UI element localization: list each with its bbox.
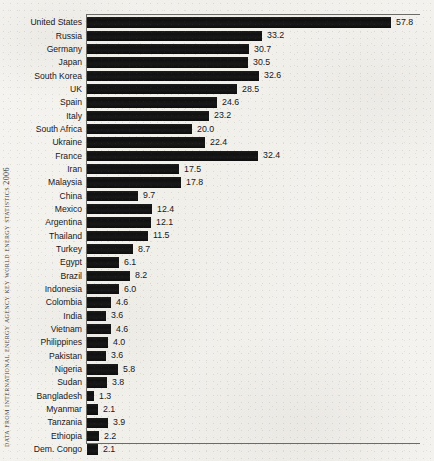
bar-and-value: 1.3 [87,391,111,401]
bar-row: South Korea32.6 [0,69,434,82]
category-label: Colombia [0,298,82,307]
bar [87,337,108,347]
value-label: 22.4 [210,138,227,147]
value-label: 11.5 [153,231,169,240]
bar-and-value: 32.6 [87,71,281,81]
bar [87,311,106,321]
value-label: 9.7 [143,191,155,200]
bar-row: Turkey8.7 [0,243,434,256]
bar-and-value: 2.1 [87,404,115,414]
bar-row: Pakistan3.6 [0,350,434,363]
category-label: India [0,312,82,321]
category-label: Brazil [0,272,82,281]
category-label: South Korea [0,72,82,81]
bar [87,351,106,361]
chart-page: Data from International Energy Agency Ke… [0,0,434,461]
bar [87,324,111,334]
category-label: Dem. Congo [0,445,82,454]
bar [87,164,179,174]
category-label: Tanzania [0,418,82,427]
category-label: South Africa [0,125,82,134]
bar [87,44,249,54]
value-label: 6.1 [124,258,136,267]
category-label: Ethiopia [0,432,82,441]
bar-row: United States57.8 [0,16,434,29]
value-label: 8.7 [138,245,150,254]
category-label: Italy [0,112,82,121]
bar [87,97,217,107]
category-label: Ukraine [0,138,82,147]
bar [87,151,258,161]
bar-and-value: 32.4 [87,151,280,161]
bar-row: Myanmar2.1 [0,403,434,416]
category-label: Myanmar [0,405,82,414]
bar-and-value: 30.7 [87,44,271,54]
bar-and-value: 6.1 [87,257,136,267]
value-label: 3.6 [111,351,123,360]
bar-and-value: 8.7 [87,244,150,254]
value-label: 30.7 [254,45,271,54]
category-label: Turkey [0,245,82,254]
bar [87,204,152,214]
bar-row: Nigeria5.8 [0,363,434,376]
bar [87,71,259,81]
bar [87,271,130,281]
bar-and-value: 57.8 [87,17,413,27]
value-label: 12.4 [157,205,174,214]
value-label: 20.0 [197,125,214,134]
bar [87,137,205,147]
bar-row: Malaysia17.8 [0,176,434,189]
category-label: Argentina [0,218,82,227]
bar-row: Russia33.2 [0,29,434,42]
bar-and-value: 30.5 [87,57,270,67]
bar-row: Spain24.6 [0,96,434,109]
category-label: Mexico [0,205,82,214]
category-label: United States [0,18,82,27]
bar [87,57,248,67]
bar [87,391,94,401]
value-label: 3.6 [111,311,123,320]
bar [87,244,133,254]
bar-and-value: 28.5 [87,84,259,94]
bar-and-value: 11.5 [87,231,169,241]
category-label: Spain [0,98,82,107]
value-label: 12.1 [156,218,173,227]
bar [87,231,148,241]
value-label: 30.5 [253,58,270,67]
category-label: Sudan [0,378,82,387]
bar [87,297,111,307]
bar-and-value: 3.6 [87,311,123,321]
category-label: Bangladesh [0,392,82,401]
bar-row: India3.6 [0,310,434,323]
value-label: 32.6 [264,71,281,80]
value-label: 4.6 [116,298,128,307]
category-label: UK [0,85,82,94]
bar-row: Egypt6.1 [0,256,434,269]
bar-and-value: 5.8 [87,364,135,374]
category-label: Thailand [0,232,82,241]
bar [87,257,119,267]
axis-rule-bottom [86,443,420,444]
value-label: 57.8 [396,18,413,27]
bar-row: Thailand11.5 [0,230,434,243]
bar-row: Mexico12.4 [0,203,434,216]
value-label: 6.0 [124,285,136,294]
category-label: Malaysia [0,178,82,187]
bar-row: Brazil8.2 [0,270,434,283]
value-label: 8.2 [135,271,147,280]
axis-rule-top [86,14,420,15]
category-label: Philippines [0,338,82,347]
bar-row: South Africa20.0 [0,123,434,136]
bar-and-value: 3.8 [87,377,124,387]
value-label: 2.1 [103,445,115,454]
bar-and-value: 6.0 [87,284,136,294]
bar-and-value: 12.1 [87,217,173,227]
bar-and-value: 2.1 [87,444,115,454]
bar-and-value: 4.6 [87,297,128,307]
bar-and-value: 2.2 [87,431,116,441]
bar [87,191,138,201]
bar [87,84,237,94]
value-label: 2.1 [103,405,115,414]
value-label: 3.9 [113,418,125,427]
bar [87,431,99,441]
